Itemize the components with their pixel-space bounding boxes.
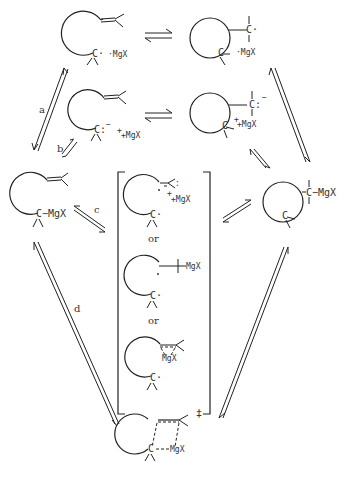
svg-text:−: − (106, 120, 111, 129)
svg-text:−: − (262, 93, 267, 102)
svg-text:‡: ‡ (196, 408, 202, 419)
svg-text:C·: C· (150, 372, 162, 383)
step-label-a: a (39, 104, 45, 115)
species-mid-right: C: − + +MgX C (190, 91, 267, 138)
species-bottom-ts: C MgX ‡ (115, 408, 202, 461)
step-label-b: b (57, 143, 63, 154)
step-label-d: d (74, 303, 81, 314)
arrow-c (74, 206, 105, 232)
svg-text:C·: C· (150, 290, 162, 301)
svg-text:+MgX: +MgX (171, 195, 190, 204)
svg-text:C·: C· (92, 48, 104, 59)
svg-text:C·: C· (246, 24, 258, 35)
bracket (118, 172, 210, 414)
svg-text:C:: C: (94, 124, 106, 135)
svg-text:MgX: MgX (170, 445, 185, 454)
svg-text:−MgX: −MgX (42, 208, 66, 219)
svg-text:MgX: MgX (162, 354, 177, 363)
step-label-c: c (94, 204, 100, 215)
arrow-b (62, 139, 77, 157)
arrow-bracket-right (223, 200, 251, 222)
svg-text:C: C (222, 120, 228, 131)
species-top-right: C· C ·MgX (190, 16, 258, 65)
svg-text:C: C (218, 47, 224, 58)
or-label-2: or (148, 315, 159, 326)
reaction-scheme: C· ·MgX C· C ·MgX C: − + +MgX (0, 0, 347, 477)
svg-text:+MgX: +MgX (121, 131, 140, 140)
bracket-species-3: MgX C· (125, 337, 184, 390)
svg-text:C: C (282, 210, 288, 221)
svg-text::: : (175, 179, 180, 188)
arrow-right-bottom (219, 247, 288, 418)
svg-text:C: C (148, 443, 154, 454)
svg-text:C·: C· (150, 209, 162, 220)
or-label-1: or (148, 233, 159, 244)
svg-text:MgX: MgX (186, 262, 201, 271)
bracket-species-1: : + +MgX C· (123, 175, 190, 227)
svg-text:·MgX: ·MgX (236, 48, 255, 57)
arrow-a (32, 68, 68, 151)
species-top-left: C· ·MgX (61, 11, 127, 65)
svg-text:C:: C: (249, 99, 261, 110)
species-right: C −MgX C (263, 180, 336, 228)
arrow-midright-right (250, 149, 270, 168)
equilibrium-arrow-mid (145, 109, 172, 122)
species-left: C −MgX (10, 172, 68, 227)
svg-text:+MgX: +MgX (237, 120, 256, 129)
equilibrium-arrow-top (145, 29, 172, 42)
arrow-d (34, 242, 119, 426)
species-mid-left: C: − + +MgX (68, 90, 141, 141)
svg-text:·MgX: ·MgX (108, 50, 127, 59)
bracket-species-2: MgX C· (124, 255, 201, 308)
svg-text:−MgX: −MgX (312, 187, 336, 198)
arrow-topright-right (269, 68, 310, 162)
